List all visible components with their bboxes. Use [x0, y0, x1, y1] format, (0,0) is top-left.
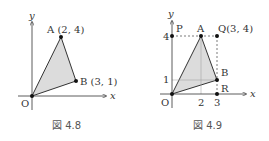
origin-label: O: [161, 97, 169, 108]
point-b-label: B (3, 1): [80, 76, 118, 87]
diagram-canvas: y x O A (2, 4) B (3, 1) 図 4.8 y x O P A …: [0, 0, 269, 141]
point-p: [170, 34, 174, 38]
point-b: [215, 78, 219, 82]
y-tick-1: 1: [163, 74, 169, 85]
point-a-label: A: [196, 23, 205, 34]
x-axis-label: x: [110, 90, 116, 101]
figure-caption: 図 4.8: [52, 120, 81, 131]
origin-label: O: [21, 98, 29, 109]
point-a: [199, 34, 203, 38]
point-q: [215, 34, 219, 38]
x-axis-label: x: [250, 88, 256, 99]
point-p-label: P: [176, 23, 183, 34]
point-b-label: B: [221, 67, 228, 78]
x-tick-2: 2: [198, 97, 204, 108]
figure-caption: 図 4.9: [193, 120, 222, 131]
point-o: [30, 94, 34, 98]
point-a-label: A (2, 4): [46, 24, 84, 35]
point-b: [74, 79, 78, 83]
y-axis-label: y: [28, 10, 35, 21]
x-tick-3: 3: [214, 97, 220, 108]
point-r: [215, 92, 219, 96]
shaded-triangle: [32, 37, 76, 96]
y-axis-label: y: [167, 8, 174, 19]
figure-4-8: y x O A (2, 4) B (3, 1) 図 4.8: [18, 10, 118, 131]
point-a: [59, 35, 63, 39]
point-q-label: Q(3, 4): [218, 23, 253, 34]
y-tick-4: 4: [163, 31, 169, 42]
point-r-label: R: [221, 83, 229, 94]
figure-4-9: y x O P A Q(3, 4) B R 2 3 1 4 図 4.9: [160, 8, 256, 131]
point-o: [170, 92, 174, 96]
shaded-triangle: [172, 36, 217, 94]
